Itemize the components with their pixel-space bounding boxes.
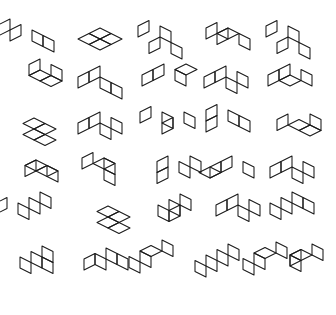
right-face-rhombus (129, 257, 140, 274)
right-face-rhombus (184, 112, 195, 129)
left-face-rhombus (153, 64, 164, 81)
figure-r2c4 (204, 66, 248, 94)
figure-r4c4 (199, 156, 254, 178)
left-face-rhombus (78, 118, 89, 135)
figure-r1c3 (138, 21, 182, 60)
right-face-rhombus (228, 244, 239, 261)
top-face-rhombus (108, 223, 130, 234)
top-face-rhombus (23, 129, 45, 140)
figure-r4c3 (157, 156, 201, 184)
left-face-rhombus (157, 167, 168, 184)
left-face-rhombus (270, 162, 281, 179)
right-face-rhombus (270, 203, 281, 220)
right-face-rhombus (292, 192, 303, 209)
left-face-rhombus (268, 70, 279, 87)
right-face-rhombus (243, 259, 254, 276)
left-face-rhombus (216, 200, 227, 217)
top-face-rhombus (34, 135, 56, 146)
right-face-rhombus (239, 34, 250, 51)
top-face-rhombus (279, 75, 301, 86)
right-face-rhombus (226, 77, 237, 94)
right-face-rhombus (254, 253, 265, 270)
figures-layer (0, 19, 323, 277)
right-face-rhombus (249, 200, 260, 217)
isometric-figure-canvas (0, 0, 336, 315)
figure-sheet (0, 0, 336, 315)
figure-r3c3 (140, 107, 195, 135)
top-face-rhombus (254, 248, 276, 259)
figure-r4c2 (82, 153, 115, 186)
figure-r3c1 (23, 118, 56, 146)
right-face-rhombus (292, 167, 303, 184)
left-face-rhombus (266, 21, 277, 38)
figure-r5c1 (0, 192, 51, 220)
left-face-rhombus (206, 116, 217, 133)
figure-r4c5 (270, 156, 314, 184)
left-face-rhombus (89, 66, 100, 83)
figure-r1c5 (266, 21, 310, 60)
right-face-rhombus (162, 240, 173, 257)
top-face-rhombus (108, 212, 130, 223)
left-face-rhombus (89, 112, 100, 129)
left-face-rhombus (204, 72, 215, 89)
right-face-rhombus (106, 248, 117, 265)
right-face-rhombus (301, 70, 312, 87)
right-face-rhombus (29, 198, 40, 215)
left-face-rhombus (277, 114, 288, 131)
top-face-rhombus (97, 206, 119, 217)
figure-r5c4 (216, 194, 260, 222)
right-face-rhombus (104, 169, 115, 186)
figure-r2c5 (268, 64, 312, 86)
figure-r4c1 (25, 160, 58, 182)
right-face-rhombus (180, 194, 191, 211)
figure-r6c5 (243, 242, 287, 275)
right-face-rhombus (299, 43, 310, 60)
left-face-rhombus (82, 153, 93, 170)
figure-r6c3 (129, 240, 173, 273)
figure-r2c3 (142, 64, 197, 86)
left-face-rhombus (206, 23, 217, 40)
right-face-rhombus (239, 116, 250, 133)
right-face-rhombus (42, 257, 53, 274)
right-face-rhombus (303, 162, 314, 179)
left-face-rhombus (10, 25, 21, 42)
figure-r1c1 (0, 19, 54, 52)
left-face-rhombus (84, 254, 95, 271)
right-face-rhombus (206, 255, 217, 272)
right-face-rhombus (310, 114, 321, 131)
top-face-rhombus (288, 120, 310, 131)
right-face-rhombus (160, 26, 171, 43)
right-face-rhombus (95, 254, 106, 271)
right-face-rhombus (111, 83, 122, 100)
figure-r6c6 (290, 244, 323, 272)
right-face-rhombus (40, 192, 51, 209)
right-face-rhombus (243, 162, 254, 179)
right-face-rhombus (303, 198, 314, 215)
left-face-rhombus (281, 156, 292, 173)
top-face-rhombus (23, 118, 45, 129)
left-face-rhombus (215, 66, 226, 83)
left-face-rhombus (277, 37, 288, 54)
figure-r1c2 (78, 28, 122, 50)
right-face-rhombus (158, 205, 169, 222)
right-face-rhombus (276, 242, 287, 259)
top-face-rhombus (78, 34, 100, 45)
right-face-rhombus (140, 251, 151, 268)
right-face-rhombus (288, 26, 299, 43)
right-face-rhombus (195, 261, 206, 278)
figure-r5c5 (270, 192, 314, 220)
left-face-rhombus (138, 21, 149, 38)
figure-r6c1 (20, 246, 53, 274)
right-face-rhombus (179, 162, 190, 179)
right-face-rhombus (32, 30, 43, 47)
figure-r1c4 (206, 23, 250, 51)
top-face-rhombus (89, 39, 111, 50)
right-face-rhombus (190, 156, 201, 173)
top-face-rhombus (40, 76, 62, 87)
figure-r3c5 (277, 114, 321, 136)
figure-r5c3 (158, 194, 191, 222)
left-face-rhombus (221, 156, 232, 173)
left-face-rhombus (0, 198, 7, 215)
figure-r6c2 (84, 248, 128, 270)
figure-r6c4 (195, 244, 239, 277)
